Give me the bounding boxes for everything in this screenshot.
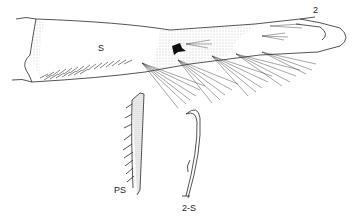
label-pecten-spine: PS	[114, 186, 126, 195]
label-seta-detail: 2-S	[182, 204, 196, 213]
seta-2s-detail	[182, 110, 200, 198]
siphon-drawing	[0, 0, 356, 219]
stipple-region	[150, 24, 258, 72]
label-seta-number: 2	[313, 6, 318, 15]
label-siphon: S	[98, 44, 104, 53]
pecten-comb	[40, 60, 132, 80]
siphon-illustration: S 2 PS 2-S	[0, 0, 356, 219]
pecten-spine-detail	[123, 93, 144, 195]
